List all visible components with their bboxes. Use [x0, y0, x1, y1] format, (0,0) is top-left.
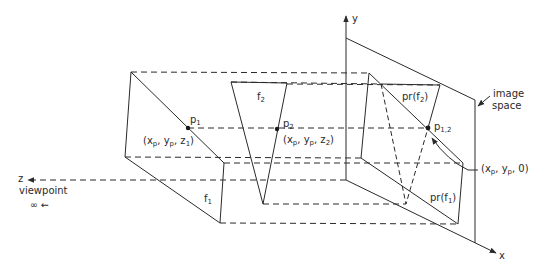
point-p2-coords: (xp, yp, z2)	[283, 135, 334, 147]
z-axis-label: z	[18, 174, 23, 184]
projection-diagram: y x z viewpoint ∞ ← image space f1 f2 pr…	[0, 0, 548, 271]
image-space-plane	[346, 38, 475, 243]
image-space-pointer	[478, 96, 490, 106]
point-p1-label: p1	[190, 115, 201, 127]
x-axis-label: x	[499, 251, 505, 261]
viewpoint-label: viewpoint	[19, 186, 68, 196]
x-axis	[346, 180, 496, 253]
point-p1-coords: (xp, yp, z1)	[143, 136, 194, 148]
point-p12	[426, 126, 431, 131]
image-space-label-line2: space	[492, 101, 521, 111]
face-f2-label: f2	[257, 92, 265, 104]
image-space-label-line1: image	[493, 89, 524, 99]
y-axis-label: y	[352, 14, 358, 24]
projection-f1-label: pr(f1)	[430, 193, 456, 205]
point-p12-label: p1,2	[434, 122, 452, 134]
point-p2-label: p2	[283, 119, 294, 131]
point-p12-coords: (xp, yp, 0)	[481, 164, 529, 176]
diagram-lines	[0, 0, 548, 271]
viewpoint-infinity: ∞ ←	[30, 200, 49, 210]
projection-f2-label: pr(f2)	[402, 92, 428, 104]
point-p2	[275, 127, 279, 131]
face-f1-label: f1	[204, 194, 212, 206]
